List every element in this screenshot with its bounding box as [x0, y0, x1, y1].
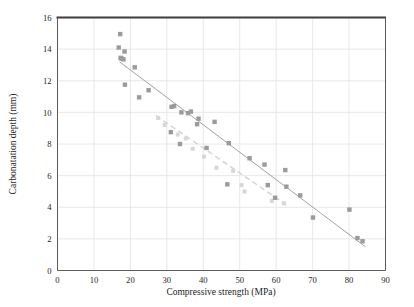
- data-point-series-light: [240, 183, 244, 187]
- data-point-series-dark: [273, 196, 277, 200]
- y-tick-label: 2: [47, 234, 51, 244]
- x-tick-label: 0: [55, 275, 59, 285]
- y-tick-label: 10: [43, 108, 52, 118]
- data-point-series-dark: [204, 146, 208, 150]
- x-tick-label: 80: [345, 275, 354, 285]
- data-point-series-dark: [247, 156, 251, 160]
- data-point-series-dark: [195, 122, 199, 126]
- data-point-series-dark: [227, 141, 231, 145]
- data-point-series-light: [242, 189, 246, 193]
- y-tick-label: 0: [47, 266, 51, 276]
- data-point-series-dark: [212, 120, 216, 124]
- x-tick-label: 60: [272, 275, 281, 285]
- data-point-series-dark: [283, 168, 287, 172]
- data-point-series-dark: [284, 184, 288, 188]
- x-axis-label: Compressive strength (MPa): [166, 287, 275, 298]
- x-tick-label: 30: [163, 275, 172, 285]
- data-point-series-light: [184, 136, 188, 140]
- data-point-series-dark: [118, 56, 122, 60]
- y-tick-label: 16: [43, 13, 52, 23]
- data-point-series-dark: [172, 104, 176, 108]
- data-point-series-dark: [266, 183, 270, 187]
- plot-background: [0, 0, 414, 307]
- data-point-series-dark: [262, 162, 266, 166]
- data-point-series-dark: [189, 109, 193, 113]
- x-tick-label: 90: [381, 275, 390, 285]
- data-point-series-dark: [178, 142, 182, 146]
- data-point-series-dark: [123, 83, 127, 87]
- x-tick-label: 40: [199, 275, 208, 285]
- data-point-series-dark: [118, 32, 122, 36]
- y-tick-label: 14: [43, 44, 52, 54]
- chart-figure: 01020304050607080900246810121416 Compres…: [0, 0, 414, 307]
- data-point-series-dark: [298, 193, 302, 197]
- data-point-series-dark: [179, 110, 183, 114]
- data-point-series-dark: [169, 130, 173, 134]
- data-point-series-light: [214, 166, 218, 170]
- data-point-series-light: [156, 116, 160, 120]
- data-point-series-dark: [137, 95, 141, 99]
- x-tick-label: 20: [126, 275, 135, 285]
- data-point-series-light: [176, 133, 180, 137]
- data-point-series-light: [163, 123, 167, 127]
- y-tick-label: 12: [43, 76, 52, 86]
- y-tick-label: 4: [47, 202, 52, 212]
- x-tick-label: 70: [308, 275, 317, 285]
- data-point-series-dark: [355, 236, 359, 240]
- scatter-plot: 01020304050607080900246810121416 Compres…: [0, 0, 414, 307]
- y-tick-label: 8: [47, 139, 51, 149]
- y-tick-label: 6: [47, 171, 52, 181]
- data-point-series-light: [202, 155, 206, 159]
- data-point-series-dark: [117, 45, 121, 49]
- data-point-series-dark: [146, 88, 150, 92]
- data-point-series-light: [282, 201, 286, 205]
- y-axis-label: Carbonatation depth (mm): [8, 94, 19, 195]
- data-point-series-dark: [196, 117, 200, 121]
- data-point-series-dark: [311, 215, 315, 219]
- data-point-series-light: [191, 147, 195, 151]
- data-point-series-dark: [347, 207, 351, 211]
- x-tick-label: 10: [90, 275, 99, 285]
- x-tick-label: 50: [235, 275, 244, 285]
- data-point-series-dark: [133, 65, 137, 69]
- data-point-series-dark: [225, 182, 229, 186]
- data-point-series-dark: [122, 49, 126, 53]
- data-point-series-light: [231, 169, 235, 173]
- data-point-series-dark: [360, 239, 364, 243]
